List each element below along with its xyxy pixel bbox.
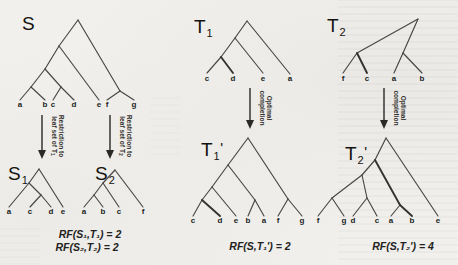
tree-edge [391,205,400,216]
down-arrow-icon [378,87,390,131]
leaf-label: a [388,75,400,83]
leaf-label: d [347,217,359,225]
tree-edge [29,169,39,183]
tree-edge [362,175,367,198]
leaf-label: d [214,217,226,225]
tree-edge [288,199,302,216]
tree-edge [357,53,367,73]
leaf-label: d [68,101,80,109]
tree-edge [403,53,422,73]
tree-edge [120,91,134,100]
tree-T2-prime-edges [312,132,452,230]
tree-edge [107,91,120,100]
down-arrow-icon [104,114,116,160]
leaf-label: c [187,217,199,225]
tree-edge [221,38,235,57]
leaf-label: b [416,75,428,83]
tree-edge [30,195,41,207]
completion-arrow1-label: Optimal completion [258,88,273,128]
down-arrow-icon [36,114,48,160]
leaf-label: e [57,208,69,216]
tree-edge [59,46,99,100]
leaf-label: a [284,75,296,83]
tree-edge [53,87,61,100]
tree-edge [394,53,403,73]
tree-S2: S2 a b c f [80,160,150,218]
leaf-label: c [371,217,383,225]
scan-bleed-artifact [0,225,40,265]
leaf-label: c [47,101,59,109]
down-arrow-icon [244,87,256,131]
leaf-label: g [296,217,308,225]
tree-edge [84,195,94,207]
tree-edge [343,53,357,73]
tree-edge [9,183,29,207]
tree-edge [212,165,228,187]
leaf-label: b [406,217,418,225]
leaf-label: f [137,208,149,216]
leaf-label: e [432,217,444,225]
tree-edge [248,138,288,199]
tree-edge [332,198,344,216]
rf-distance-figure: S a b c d e f g T1 [0,0,458,265]
tree-edge [193,200,202,216]
tree-edge [207,57,221,73]
tree-edge [386,138,438,216]
tree-edge [29,183,41,195]
tree-edge [202,200,220,216]
tree-edge [332,175,362,198]
tree-T1: T1 c d e a [190,12,300,84]
leaf-label: c [361,75,373,83]
tree-edge [115,170,143,207]
tree-edge [357,19,418,53]
leaf-label: f [337,75,349,83]
tree-edge [375,138,386,160]
leaf-label: f [272,217,284,225]
tree-S-edges [5,12,150,115]
completion-arrow2-label: Optimal completion [392,88,407,128]
leaf-label: e [257,75,269,83]
tree-edge [367,198,377,216]
leaf-label: c [113,208,125,216]
restriction-arrow2-label: Restriction to leaf set of T2 [116,114,133,158]
tree-edge [228,138,248,165]
tree-T2: T2 f c a b [325,12,450,84]
tree-edge [94,195,103,207]
leaf-label: a [14,101,26,109]
restriction-arrow1-label: Restriction to leaf set of T1 [48,114,65,158]
tree-edge [202,187,212,200]
tree-edge [247,21,290,74]
tree-edge [94,183,103,195]
tree-edge [20,87,31,100]
tree-edge [39,169,63,207]
scan-bleed-artifact [150,95,180,155]
tree-edge [41,195,51,207]
tree-edge [31,69,45,87]
equation-rf-s2-t2: RF(S₂,T₂) = 2 [37,241,137,253]
leaf-label: c [201,75,213,83]
tree-edge [278,199,288,216]
tree-edge [103,170,115,183]
leaf-label: a [385,217,397,225]
leaf-label: c [24,208,36,216]
tree-edge [248,200,255,216]
leaf-label: b [242,217,254,225]
leaf-label: d [45,208,57,216]
tree-edge [221,57,233,73]
tree-edge [61,87,74,100]
tree-T2-prime: T2' f g d c a b e [312,132,452,230]
equation-rf-s-t1p: RF(S,T₁') = 2 [205,240,315,252]
tree-edge [400,205,412,216]
tree-edge [228,165,255,200]
leaf-label: e [230,217,242,225]
tree-edge [59,20,78,46]
tree-edge [375,160,400,205]
leaf-label: f [312,217,324,225]
tree-edge [45,69,61,87]
tree-edge [45,46,59,69]
leaf-label: g [128,101,140,109]
tree-edge [235,38,263,73]
tree-edge [255,200,264,216]
tree-edge [31,87,45,100]
tree-edge [403,19,418,53]
